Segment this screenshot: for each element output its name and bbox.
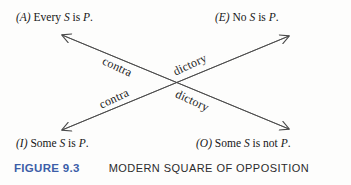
figure-caption-number: FIGURE 9.3 [14, 162, 80, 174]
arrow-o-to-a [62, 35, 289, 129]
arrow-i-to-e [62, 36, 289, 130]
figure-caption: FIGURE 9.3 MODERN SQUARE OF OPPOSITION [14, 162, 344, 174]
figure-caption-title: MODERN SQUARE OF OPPOSITION [109, 162, 309, 174]
figure-container: (A) Every S is P. (E) No S is P. (I) Som… [0, 0, 351, 185]
